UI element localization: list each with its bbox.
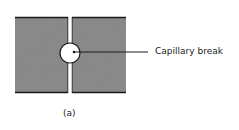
capillary-break-diagram	[0, 0, 239, 130]
figure-caption: (a)	[63, 108, 76, 118]
capillary-break-cavity	[60, 43, 80, 63]
callout-label: Capillary break	[155, 46, 223, 56]
